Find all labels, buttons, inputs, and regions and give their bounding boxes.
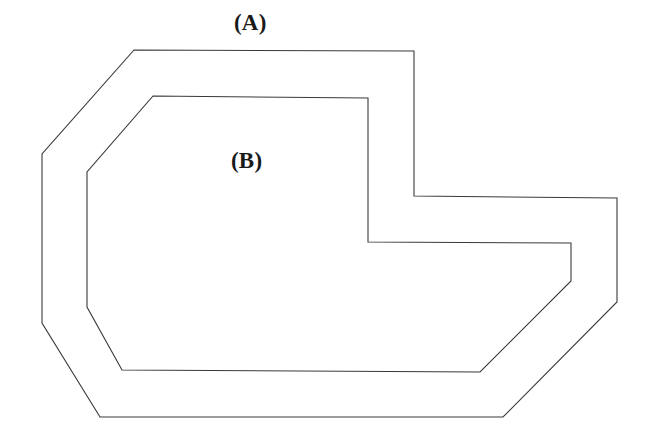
region-label-a: (A) bbox=[234, 11, 267, 34]
region-label-b: (B) bbox=[231, 149, 262, 172]
nested-polygon-diagram bbox=[0, 0, 657, 437]
figure-canvas: (A) (B) bbox=[0, 0, 657, 437]
